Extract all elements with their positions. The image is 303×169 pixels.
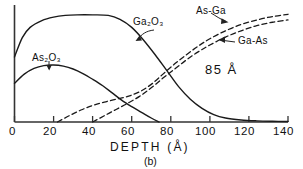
ga2o3-leader [136, 30, 155, 41]
x-tick-label-60: 60 [121, 125, 135, 137]
x-tick-label-80: 80 [160, 125, 174, 137]
series-label-gaas: Ga-As [238, 35, 268, 46]
gaas-leader [219, 37, 236, 44]
x-tick-marks [15, 116, 289, 122]
figure-panel: 0 20 40 60 80 100 120 140 DEPTH (Å) (b) … [0, 0, 303, 169]
series-label-asga: As-Ga [196, 5, 226, 16]
x-tick-label-100: 100 [195, 125, 216, 137]
x-axis-title: DEPTH (Å) [110, 140, 190, 154]
curve-as-ga [57, 14, 288, 122]
figure-caption: (b) [144, 155, 157, 167]
thickness-annotation: 85 Å [205, 62, 238, 77]
x-tick-label-140: 140 [273, 125, 294, 137]
x-tick-label-0: 0 [9, 125, 16, 137]
x-tick-label-20: 20 [43, 125, 57, 137]
x-tick-label-120: 120 [234, 125, 255, 137]
series-label-ga2o3: Ga₂O₃ [133, 16, 164, 27]
series-label-as2o3: As₂O₃ [32, 52, 61, 63]
x-tick-label-40: 40 [82, 125, 96, 137]
